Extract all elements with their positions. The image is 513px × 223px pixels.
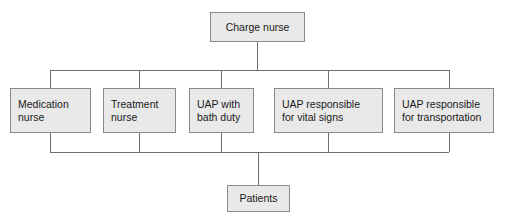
connector-riser-uap-transportation: [449, 133, 450, 152]
connector-riser-treatment-nurse: [139, 133, 140, 152]
connector-dropper-medication-nurse: [50, 70, 51, 88]
node-patients-label: Patients: [240, 192, 278, 205]
connector-lower-bus: [50, 152, 449, 153]
node-treatment-nurse[interactable]: Treatment nurse: [103, 88, 176, 133]
connector-riser-medication-nurse: [50, 133, 51, 152]
connector-dropper-uap-vital-signs: [328, 70, 329, 88]
connector-dropper-treatment-nurse: [139, 70, 140, 88]
connector-riser-uap-vital-signs: [328, 133, 329, 152]
connector-root-stem: [257, 42, 258, 70]
node-treatment-nurse-label: Treatment nurse: [111, 98, 158, 124]
node-medication-nurse-label: Medication nurse: [18, 98, 69, 124]
node-uap-transportation[interactable]: UAP responsible for transportation: [394, 88, 494, 133]
node-uap-bath-duty[interactable]: UAP with bath duty: [189, 88, 254, 133]
node-uap-vital-signs-label: UAP responsible for vital signs: [282, 98, 360, 124]
org-chart-diagram: Charge nurse Medication nurse Treatment …: [0, 0, 513, 223]
node-uap-transportation-label: UAP responsible for transportation: [402, 98, 481, 124]
node-uap-bath-duty-label: UAP with bath duty: [197, 98, 240, 124]
node-charge-nurse[interactable]: Charge nurse: [210, 12, 305, 42]
node-charge-nurse-label: Charge nurse: [226, 21, 290, 34]
connector-upper-bus: [50, 70, 449, 71]
node-patients[interactable]: Patients: [227, 185, 290, 212]
connector-riser-uap-bath-duty: [221, 133, 222, 152]
connector-dropper-uap-transportation: [449, 70, 450, 88]
node-uap-vital-signs[interactable]: UAP responsible for vital signs: [274, 88, 383, 133]
connector-leaf-stem: [258, 152, 259, 185]
connector-dropper-uap-bath-duty: [221, 70, 222, 88]
node-medication-nurse[interactable]: Medication nurse: [10, 88, 91, 133]
